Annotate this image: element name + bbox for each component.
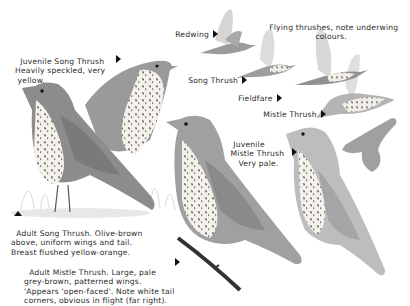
pointer-arrow-icon <box>321 110 326 118</box>
flying-thrushes-header: Flying thrushes, note underwing colours. <box>264 13 398 42</box>
label-redwing: Redwing <box>170 20 218 39</box>
pointer-arrow-icon <box>175 258 180 266</box>
pointer-up-icon <box>14 211 22 216</box>
juvenile-mistle-thrush-caption: Juvenile Mistle Thrush Very pale. <box>228 130 284 168</box>
pointer-arrow-icon <box>242 76 247 84</box>
pointer-arrow-icon <box>292 148 297 156</box>
pointer-arrow-icon <box>116 55 121 63</box>
adult-mistle-thrush-caption: Adult Mistle Thrush. Large, pale grey-br… <box>24 258 174 306</box>
flying-mistle-thrush-far-right-figure <box>342 118 397 172</box>
flying-mistle-thrush-figure <box>316 93 395 118</box>
label-mistle-thrush-flying: Mistle Thrush <box>258 100 326 119</box>
pointer-arrow-icon <box>213 30 218 38</box>
juvenile-song-thrush-caption: Juvenile Song Thrush Heavily speckled, v… <box>15 47 105 85</box>
label-song-thrush-flying: Song Thrush <box>183 66 247 85</box>
adult-song-thrush-caption: Adult Song Thrush. Olive-brown above, un… <box>11 219 142 257</box>
